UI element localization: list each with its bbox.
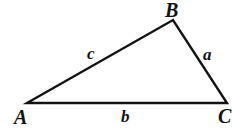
vertex-label-b: B [165, 0, 178, 20]
triangle-figure: A B C a b c [0, 0, 242, 134]
vertex-label-a: A [14, 107, 27, 127]
vertex-label-c: C [218, 106, 231, 126]
triangle-outline [27, 20, 227, 103]
side-label-a: a [203, 46, 212, 63]
side-label-b: b [121, 108, 130, 125]
side-label-c: c [87, 45, 95, 62]
